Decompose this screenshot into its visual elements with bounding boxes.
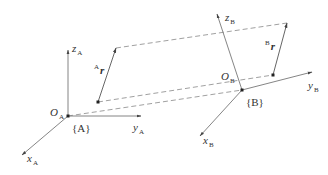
frame-a-origin-label: OA — [50, 107, 64, 121]
frame-a-axes — [22, 50, 141, 155]
frame-b-z-label: zB — [225, 12, 235, 26]
frame-b-x-label: xB — [203, 135, 214, 149]
points — [67, 74, 275, 118]
vector-b-label: Br — [265, 40, 275, 52]
frame-b-y-axis — [242, 72, 312, 90]
vector-b-r — [273, 23, 287, 75]
frame-b-x-axis — [200, 90, 242, 136]
origin-b-dot — [241, 89, 244, 92]
vector-a-label: Ar — [94, 64, 104, 76]
dashed-origin-link — [68, 90, 242, 116]
frame-a-x-axis — [22, 116, 68, 155]
vector-a-base-dot — [97, 101, 100, 104]
coordinate-frames-diagram — [0, 0, 328, 175]
position-vectors — [98, 23, 287, 102]
frame-b-y-label: yB — [308, 80, 319, 94]
frame-b-name: {B} — [246, 97, 264, 108]
origin-a-dot — [67, 115, 70, 118]
frame-a-x-label: xA — [27, 153, 38, 167]
dashed-tip-link — [116, 23, 287, 48]
frame-a-z-label: zA — [72, 43, 82, 57]
frame-a-name: {A} — [72, 123, 91, 134]
frame-a-y-label: yA — [133, 122, 144, 136]
vector-b-base-dot — [272, 74, 275, 77]
frame-b-origin-label: OB — [221, 71, 235, 85]
frame-b-axes — [200, 14, 312, 136]
